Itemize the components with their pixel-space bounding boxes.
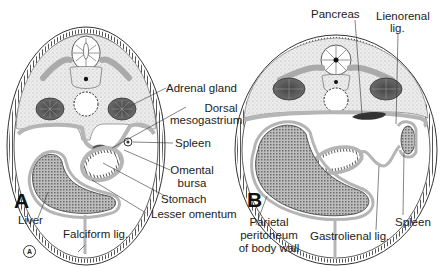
label-parietal-line3: of body wall: [233, 242, 305, 255]
panel-label-a: A: [14, 190, 29, 212]
aorta-icon: [74, 92, 98, 116]
corner-mark: A: [23, 245, 36, 258]
label-dorsal-mesogastrium-line2: mesogastrium: [170, 114, 242, 127]
label-adrenal-gland: Adrenal gland: [166, 82, 237, 95]
label-stomach: Stomach: [161, 193, 206, 206]
label-parietal-line2: peritoneum: [233, 229, 305, 242]
label-parietal-line1: Parietal: [233, 216, 305, 229]
label-spleen-b: Spleen: [395, 216, 431, 229]
label-pancreas: Pancreas: [311, 8, 360, 21]
label-falciform-lig: Falciform lig.: [63, 228, 128, 241]
label-omental-bursa-line1: Omental: [162, 164, 222, 177]
label-lienorenal-line2: lig.: [390, 22, 405, 35]
label-gastrolienal-lig: Gastrolienal lig.: [310, 230, 389, 243]
label-omental-bursa-line2: bursa: [162, 177, 222, 190]
panel-label-b: B: [247, 189, 262, 211]
label-liver: Liver: [18, 214, 43, 227]
label-spleen-a: Spleen: [175, 137, 211, 150]
label-lesser-omentum: Lesser omentum: [151, 208, 237, 221]
diagram-canvas: [0, 0, 441, 267]
spleen-b-icon: [401, 126, 415, 154]
aorta-b-icon: [324, 88, 348, 112]
